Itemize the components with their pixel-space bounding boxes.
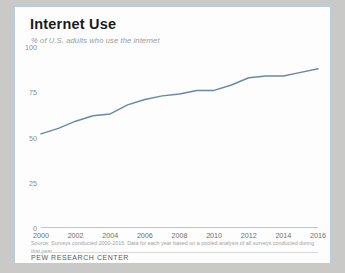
y-axis-tick-label: 100 — [25, 43, 37, 52]
chart-subtitle: % of U.S. adults who use the internet — [31, 36, 160, 45]
chart-figure: Internet Use % of U.S. adults who use th… — [14, 6, 331, 264]
line-series — [41, 47, 318, 228]
y-axis-tick-label: 75 — [29, 88, 37, 97]
footer-divider — [31, 252, 318, 253]
internet-use-line — [41, 69, 318, 134]
y-axis-tick-label: 25 — [29, 178, 37, 187]
plot-area: 0255075100 20002002200420062008201020122… — [41, 47, 318, 228]
page-title: Internet Use — [30, 16, 116, 32]
brand-label: PEW RESEARCH CENTER — [31, 254, 129, 261]
y-axis-tick-label: 50 — [29, 133, 37, 142]
